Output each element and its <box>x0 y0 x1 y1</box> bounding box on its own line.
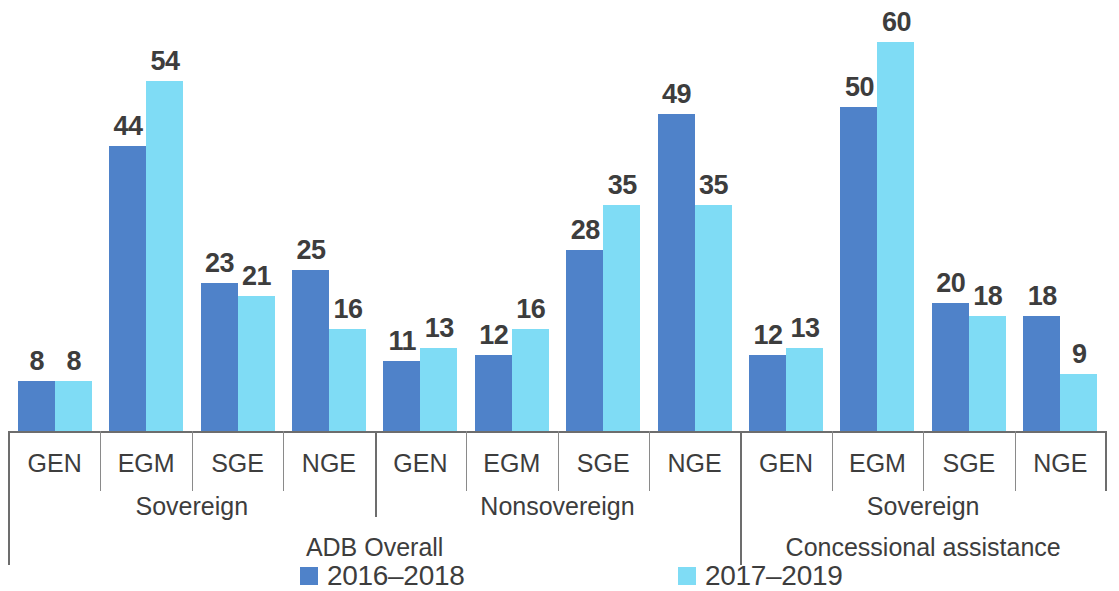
cell-divider <box>923 431 924 491</box>
supergroup-label: ADB Overall <box>9 533 740 562</box>
category-tick-label: SGE <box>923 434 1014 492</box>
bar <box>1060 374 1097 433</box>
bar <box>475 355 512 433</box>
bar <box>55 381 92 433</box>
bar-value-label: 49 <box>653 79 701 110</box>
bar <box>109 146 146 433</box>
plot-area: 8844542321251611131216283549351213506020… <box>0 0 1119 433</box>
bar-value-label: 18 <box>964 281 1012 312</box>
category-tick-label: EGM <box>100 434 191 492</box>
bar-pair: 2018 <box>932 0 1006 433</box>
bar <box>18 381 55 433</box>
bar <box>603 205 640 433</box>
group-label: Sovereign <box>740 492 1106 521</box>
bar-pair: 2321 <box>201 0 275 433</box>
bar-value-label: 18 <box>1018 281 1066 312</box>
bar <box>932 303 969 433</box>
bar <box>695 205 732 433</box>
bar-value-label: 13 <box>781 313 829 344</box>
bar-value-label: 50 <box>835 72 883 103</box>
chart-legend: 2016–20182017–2019 <box>0 560 1119 591</box>
bar-pair: 5060 <box>840 0 914 433</box>
bar <box>658 114 695 433</box>
category-tick-label: NGE <box>649 434 740 492</box>
category-tick-label: NGE <box>283 434 374 492</box>
category-tick-label: SGE <box>192 434 283 492</box>
cell-divider <box>283 431 284 491</box>
bar-value-label: 8 <box>50 346 98 377</box>
bar-value-label: 16 <box>324 294 372 325</box>
bar <box>201 283 238 433</box>
category-tick-label: NGE <box>1015 434 1106 492</box>
bar <box>877 42 914 433</box>
bar-pair: 1213 <box>749 0 823 433</box>
bar-pair: 2835 <box>566 0 640 433</box>
legend-swatch-icon <box>300 567 318 585</box>
bar-pair: 1113 <box>383 0 457 433</box>
bar-value-label: 9 <box>1055 339 1103 370</box>
category-tick-label: GEN <box>9 434 100 492</box>
category-tick-label: GEN <box>740 434 831 492</box>
cell-divider <box>466 431 467 491</box>
category-tick-label: GEN <box>375 434 466 492</box>
bar-value-label: 28 <box>561 215 609 246</box>
bar-value-label: 21 <box>233 261 281 292</box>
bar <box>512 329 549 433</box>
bar-pair: 88 <box>18 0 92 433</box>
bar-value-label: 13 <box>415 313 463 344</box>
bar-value-label: 25 <box>287 235 335 266</box>
bar-value-label: 54 <box>141 46 189 77</box>
legend-label: 2016–2018 <box>327 560 464 591</box>
legend-entry[interactable]: 2017–2019 <box>678 560 842 591</box>
legend-entry[interactable]: 2016–2018 <box>300 560 464 591</box>
group-label: Sovereign <box>9 492 375 521</box>
cell-divider <box>192 431 193 491</box>
bar-value-label: 60 <box>872 7 920 38</box>
bar <box>786 348 823 433</box>
bar-pair: 2516 <box>292 0 366 433</box>
legend-swatch-icon <box>678 567 696 585</box>
bar-pair: 189 <box>1023 0 1097 433</box>
category-tick-label: EGM <box>466 434 557 492</box>
bar-pair: 4454 <box>109 0 183 433</box>
cell-divider <box>1015 431 1016 491</box>
cell-divider <box>558 431 559 491</box>
bar <box>420 348 457 433</box>
legend-label: 2017–2019 <box>705 560 842 591</box>
bar <box>969 316 1006 433</box>
bar <box>749 355 786 433</box>
bar-value-label: 35 <box>690 170 738 201</box>
category-tick-label: EGM <box>832 434 923 492</box>
cell-divider <box>649 431 650 491</box>
cell-divider <box>100 431 101 491</box>
bar-value-label: 35 <box>598 170 646 201</box>
bar-value-label: 16 <box>507 294 555 325</box>
supergroup-label: Concessional assistance <box>740 533 1106 562</box>
cell-divider <box>832 431 833 491</box>
grouped-bar-chart: 8844542321251611131216283549351213506020… <box>0 0 1119 591</box>
bar <box>238 296 275 433</box>
group-label: Nonsovereign <box>375 492 741 521</box>
bar <box>566 250 603 433</box>
bar <box>329 329 366 433</box>
bar <box>146 81 183 433</box>
bar <box>1023 316 1060 433</box>
bar-pair: 4935 <box>658 0 732 433</box>
bar-pair: 1216 <box>475 0 549 433</box>
bar <box>383 361 420 433</box>
bar <box>840 107 877 433</box>
bar-value-label: 44 <box>104 111 152 142</box>
category-tick-label: SGE <box>558 434 649 492</box>
